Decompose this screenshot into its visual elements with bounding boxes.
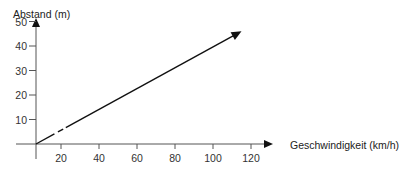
x-tick-label: 120 — [242, 152, 260, 164]
series-line-segment — [36, 134, 54, 144]
x-tick-label: 40 — [93, 152, 105, 164]
x-tick-label: 20 — [55, 152, 67, 164]
series-line-segment — [66, 35, 235, 128]
x-axis-label: Geschwindigkeit (km/h) — [290, 139, 399, 151]
y-tick-label: 20 — [15, 89, 27, 101]
x-axis-arrow-icon — [264, 140, 273, 148]
series-line-segment — [58, 129, 63, 132]
x-tick-label: 60 — [131, 152, 143, 164]
ticks: 102030405020406080100120 — [15, 16, 260, 165]
y-tick-label: 40 — [15, 40, 27, 52]
y-tick-label: 30 — [15, 65, 27, 77]
data-series — [36, 31, 242, 144]
chart: 102030405020406080100120 Abstand (m) Ges… — [0, 0, 404, 170]
x-tick-label: 100 — [204, 152, 222, 164]
x-tick-label: 80 — [169, 152, 181, 164]
y-tick-label: 10 — [15, 114, 27, 126]
y-axis-label: Abstand (m) — [13, 8, 70, 20]
